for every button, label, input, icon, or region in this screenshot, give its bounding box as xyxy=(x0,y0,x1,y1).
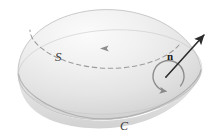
figure-canvas xyxy=(0,0,221,138)
stokes-theorem-figure: S C n xyxy=(0,0,221,138)
boundary-curve-label-C: C xyxy=(120,120,128,132)
normal-vector-label-n: n xyxy=(167,51,173,62)
surface-label-S: S xyxy=(55,50,62,63)
normal-vector-base-point xyxy=(165,76,167,78)
